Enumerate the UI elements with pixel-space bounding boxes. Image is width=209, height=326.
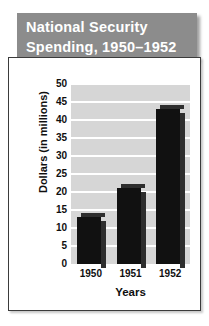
y-tick-label: 25 — [56, 169, 67, 179]
bar-top-face — [160, 105, 184, 109]
y-tick-label: 40 — [56, 115, 67, 125]
bar-side-face — [141, 192, 146, 268]
plot-area — [71, 84, 190, 264]
y-tick-label: 50 — [56, 79, 67, 89]
chart-title-line-1: National Security — [26, 17, 197, 37]
y-tick-label: 35 — [56, 133, 67, 143]
bar-side-face — [180, 113, 185, 268]
bar-1951 — [117, 188, 141, 264]
chart-title-line-2: Spending, 1950–1952 — [26, 37, 197, 57]
x-tick-label: 1951 — [119, 268, 141, 279]
x-tick-label: 1950 — [80, 268, 102, 279]
chart-frame: Dollars (in millions) 051015202530354045… — [8, 57, 201, 311]
y-tick-label: 15 — [56, 205, 67, 215]
y-tick-label: 5 — [61, 241, 67, 251]
x-tick-label: 1952 — [159, 268, 181, 279]
y-tick-label: 10 — [56, 223, 67, 233]
gridline — [71, 83, 190, 85]
bar-1950 — [77, 217, 101, 264]
chart-title-banner: National Security Spending, 1950–1952 — [17, 13, 197, 60]
gridline — [71, 101, 190, 103]
y-tick-label: 45 — [56, 97, 67, 107]
bar-top-face — [81, 213, 105, 217]
bar-top-face — [121, 184, 145, 188]
y-tick-label: 0 — [61, 259, 67, 269]
x-axis-title: Years — [71, 286, 190, 298]
bar-1952 — [156, 109, 180, 264]
x-axis-tick-labels: 195019511952 — [71, 268, 190, 282]
y-axis-tick-labels: 05101520253035404550 — [45, 84, 67, 264]
bar-side-face — [101, 221, 106, 268]
y-tick-label: 20 — [56, 187, 67, 197]
y-tick-label: 30 — [56, 151, 67, 161]
